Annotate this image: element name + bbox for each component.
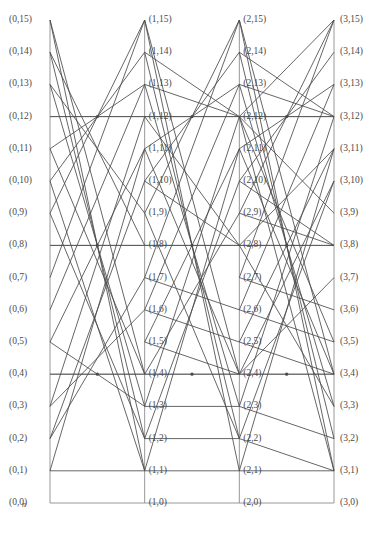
node-label-0-14: (0,14): [9, 46, 32, 56]
node-label-1-4: (1,4): [149, 368, 167, 378]
node-label-3-13: (3,13): [340, 78, 363, 88]
hub-node-8: [285, 373, 288, 376]
node-label-3-7: (3,7): [340, 272, 358, 282]
edge-14: [50, 20, 145, 278]
node-label-0-10: (0,10): [9, 175, 32, 185]
node-label-2-2: (2,2): [243, 433, 261, 443]
node-label-2-8: (2,8): [243, 239, 261, 249]
node-label-0-6: (0,6): [9, 304, 27, 314]
node-label-0-9: (0,9): [9, 207, 27, 217]
node-label-3-10: (3,10): [340, 175, 363, 185]
node-label-1-12: (1,12): [149, 111, 172, 121]
node-label-3-15: (3,15): [340, 14, 363, 24]
node-label-1-11: (1,11): [149, 143, 172, 153]
hub-node-2: [96, 373, 99, 376]
hub-node-6: [285, 115, 288, 118]
node-label-2-4: (2,4): [243, 368, 261, 378]
node-label-1-14: (1,14): [149, 46, 172, 56]
node-label-0-8: (0,8): [9, 239, 27, 249]
node-label-1-13: (1,13): [149, 78, 172, 88]
node-label-1-2: (1,2): [149, 433, 167, 443]
butterfly-network-figure: (0,0)(0,1)(0,2)(0,3)(0,4)(0,5)(0,6)(0,7)…: [0, 0, 379, 536]
node-label-1-10: (1,10): [149, 175, 172, 185]
edge-47: [145, 213, 240, 374]
node-label-3-14: (3,14): [340, 46, 363, 56]
hub-node-0: [96, 115, 99, 118]
node-label-0-13: (0,13): [9, 78, 32, 88]
node-label-2-9: (2,9): [243, 207, 261, 217]
node-label-2-14: (2,14): [243, 46, 266, 56]
node-label-1-5: (1,5): [149, 336, 167, 346]
node-label-2-5: (2,5): [243, 336, 261, 346]
hub-node-7: [285, 244, 288, 247]
hub-node-3: [190, 115, 193, 118]
node-label-0-7: (0,7): [9, 272, 27, 282]
hub-node-5: [190, 373, 193, 376]
node-label-2-3: (2,3): [243, 400, 261, 410]
node-label-2-6: (2,6): [243, 304, 261, 314]
edge-61: [239, 20, 334, 117]
node-label-0-4: (0,4): [9, 368, 27, 378]
node-label-2-13: (2,13): [243, 78, 266, 88]
node-label-3-6: (3,6): [340, 304, 358, 314]
node-label-2-12: (2,12): [243, 111, 266, 121]
node-label-1-8: (1,8): [149, 239, 167, 249]
node-label-1-9: (1,9): [149, 207, 167, 217]
node-label-3-2: (3,2): [340, 433, 358, 443]
node-label-2-10: (2,10): [243, 175, 266, 185]
node-label-0-3: (0,3): [9, 400, 27, 410]
node-label-3-8: (3,8): [340, 239, 358, 249]
node-label-3-12: (3,12): [340, 111, 363, 121]
node-label-3-3: (3,3): [340, 400, 358, 410]
node-label-2-0: (2,0): [243, 497, 261, 507]
node-label-0-5: (0,5): [9, 336, 27, 346]
node-label-0-1: (0,1): [9, 465, 27, 475]
node-label-3-11: (3,11): [340, 143, 363, 153]
axis-name-n: n: [22, 500, 26, 509]
node-label-3-4: (3,4): [340, 368, 358, 378]
node-label-2-7: (2,7): [243, 272, 261, 282]
edge-83: [239, 117, 334, 407]
node-label-2-11: (2,11): [243, 143, 266, 153]
node-label-2-1: (2,1): [243, 465, 261, 475]
node-label-1-3: (1,3): [149, 400, 167, 410]
node-label-1-0: (1,0): [149, 497, 167, 507]
network-canvas: [0, 0, 379, 536]
node-label-3-0: (3,0): [340, 497, 358, 507]
node-label-0-12: (0,12): [9, 111, 32, 121]
node-label-1-7: (1,7): [149, 272, 167, 282]
hub-node-1: [96, 244, 99, 247]
node-label-0-11: (0,11): [9, 143, 32, 153]
edge-19: [50, 117, 145, 407]
node-label-0-2: (0,2): [9, 433, 27, 443]
node-label-3-1: (3,1): [340, 465, 358, 475]
node-label-1-6: (1,6): [149, 304, 167, 314]
node-label-3-9: (3,9): [340, 207, 358, 217]
edge-48: [145, 117, 240, 407]
hub-node-4: [190, 244, 193, 247]
node-label-3-5: (3,5): [340, 336, 358, 346]
node-label-1-1: (1,1): [149, 465, 167, 475]
node-label-2-15: (2,15): [243, 14, 266, 24]
node-label-1-15: (1,15): [149, 14, 172, 24]
node-label-0-15: (0,15): [9, 14, 32, 24]
